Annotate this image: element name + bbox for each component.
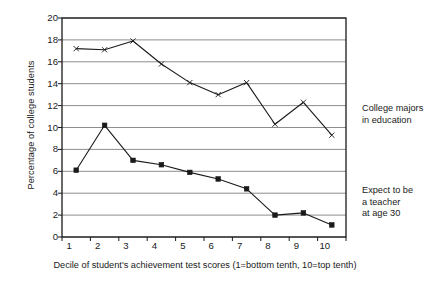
marker-0-9 [329,133,334,138]
series-1 [74,123,334,227]
marker-0-7 [272,122,277,127]
marker-1-2 [131,158,136,163]
plot-area [0,0,441,284]
marker-1-0 [74,168,79,173]
marker-1-8 [301,211,306,216]
chart-figure: Percentage of college students 20 18 16 … [0,0,441,284]
marker-1-9 [330,223,335,228]
marker-1-7 [273,213,278,218]
series-0 [74,38,335,137]
marker-1-1 [102,123,107,128]
gridlines [58,18,346,237]
marker-0-4 [187,80,192,85]
marker-1-4 [188,170,193,175]
series-line-1 [76,125,332,225]
marker-0-6 [244,80,249,85]
marker-1-6 [244,187,249,192]
data-series-layer [74,38,335,227]
marker-0-8 [301,100,306,105]
marker-1-3 [159,162,164,167]
marker-0-5 [216,92,221,97]
series-line-0 [76,41,332,135]
marker-1-5 [216,177,221,182]
